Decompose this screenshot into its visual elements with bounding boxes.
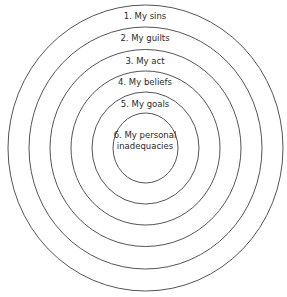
layer-3-label: 3. My act [125, 56, 165, 66]
layer-6-label-line2: inadequacies [117, 141, 174, 151]
concentric-layers-diagram: 1. My sins 2. My guilts 3. My act 4. My … [0, 0, 287, 297]
layer-6-label-line1: 6. My personal [114, 130, 177, 140]
layer-4-label: 4. My beliefs [118, 77, 172, 87]
layer-2-label: 2. My guilts [120, 33, 170, 43]
layer-5-label: 5. My goals [121, 99, 170, 109]
layer-1-label: 1. My sins [124, 11, 167, 21]
